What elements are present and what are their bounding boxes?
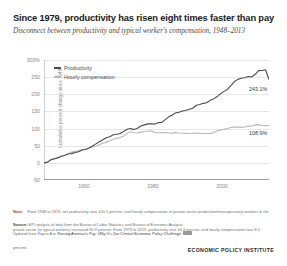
- legend-swatch-icon: [54, 67, 61, 68]
- legend-swatch-icon: [54, 76, 61, 77]
- y-tick-label: 150: [14, 108, 40, 114]
- y-tick-label: 0: [14, 160, 40, 166]
- x-tick-label: 1960: [69, 183, 99, 189]
- updated-reference: Raising America's Pay: Why It's Our Cent…: [57, 231, 181, 236]
- x-tick-label: 1980: [138, 183, 168, 189]
- y-tick-label: 100: [14, 126, 40, 132]
- legend-item-productivity[interactable]: Productivity: [54, 64, 115, 72]
- end-label-productivity: 243.1%: [249, 86, 267, 92]
- chart-legend: Productivity Hourly compensation: [54, 64, 115, 82]
- source-body: EPI analysis of data from the Bureau of …: [29, 222, 183, 227]
- updated-prefix: Updated from Figure A in: [13, 231, 56, 236]
- x-tick-label: 2000: [207, 183, 237, 189]
- page-title: Since 1979, productivity has risen eight…: [13, 13, 275, 24]
- epi-logo: ECONOMIC POLICY INSTITUTE: [188, 247, 274, 253]
- share-chip-icon[interactable]: [183, 231, 192, 234]
- y-tick-label: 250: [14, 74, 40, 80]
- page-subtitle: Disconnect between productivity and typi…: [13, 27, 271, 36]
- end-label-compensation: 108.9%: [249, 130, 267, 136]
- note-lead: Note:: [13, 209, 23, 214]
- note-body: From 1948 to 1973, net productivity rose…: [13, 209, 269, 250]
- line-hourly-compensation: [44, 125, 269, 163]
- y-tick-label: 50: [14, 143, 40, 149]
- y-tick-label: 300%: [14, 57, 40, 63]
- source-lead: Source:: [13, 222, 28, 227]
- legend-item-hourly-compensation[interactable]: Hourly compensation: [54, 73, 115, 81]
- y-tick-label: -50: [14, 177, 40, 183]
- chart-page: Since 1979, productivity has risen eight…: [0, 0, 287, 266]
- legend-label: Hourly compensation: [64, 74, 115, 80]
- line-productivity: [44, 70, 269, 163]
- chart-updated-note: Updated from Figure A in Raising America…: [13, 231, 275, 236]
- legend-label: Productivity: [64, 65, 92, 71]
- chart-source: Source: EPI analysis of data from the Bu…: [13, 222, 271, 227]
- y-tick-label: 200: [14, 91, 40, 97]
